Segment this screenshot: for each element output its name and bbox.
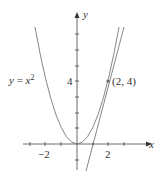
y-axis-arrow-icon — [75, 12, 80, 18]
x-tick-label-neg2: −2 — [38, 148, 50, 160]
y-tick-label-4: 4 — [67, 75, 73, 87]
curve-label: y = x2 — [8, 73, 35, 86]
x-axis-label: x — [148, 138, 154, 150]
y-axis-label: y — [82, 8, 88, 20]
parabola-tangent-diagram: y x −2 2 4 (2, 4) y = x2 — [0, 0, 158, 176]
y-axis — [75, 17, 79, 170]
point-label: (2, 4) — [112, 75, 136, 88]
point-marker — [106, 79, 109, 82]
x-axis — [23, 142, 148, 146]
x-tick-label-2: 2 — [105, 148, 111, 160]
